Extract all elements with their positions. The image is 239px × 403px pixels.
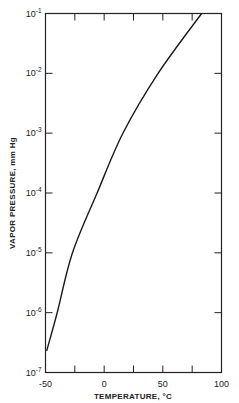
y-tick-label: 10-1	[26, 7, 42, 19]
x-axis-ticks	[75, 14, 192, 373]
y-axis-ticks	[46, 73, 222, 312]
x-tick-label: 50	[158, 379, 168, 389]
x-tick-label: 0	[102, 379, 107, 389]
vapor-pressure-chart: -50050100 10-710-610-510-410-310-210-1 T…	[0, 0, 239, 403]
y-tick-label: 10-3	[26, 126, 42, 138]
y-tick-label: 10-2	[26, 66, 42, 78]
y-tick-label: 10-4	[26, 186, 42, 198]
y-axis-title: VAPOR PRESSURE, mm Hg	[8, 137, 17, 249]
x-tick-label: -50	[39, 379, 52, 389]
vapor-pressure-curve	[47, 14, 202, 351]
x-axis-title: TEMPERATURE, °C	[94, 392, 172, 401]
y-tick-label: 10-7	[26, 366, 42, 378]
plot-frame	[46, 14, 222, 373]
y-tick-label: 10-5	[26, 246, 42, 258]
y-tick-label: 10-6	[26, 306, 42, 318]
x-axis-tick-labels: -50050100	[39, 379, 229, 389]
x-tick-label: 100	[214, 379, 229, 389]
y-axis-tick-labels: 10-710-610-510-410-310-210-1	[26, 7, 42, 378]
